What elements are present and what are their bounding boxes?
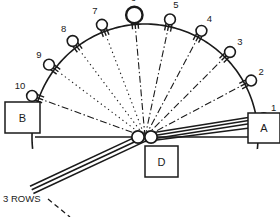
box-b-label: B — [19, 112, 26, 124]
station-circle-7[interactable] — [97, 19, 108, 30]
lower-beam-rail-1 — [32, 137, 145, 190]
leader-line-station-5 — [145, 33, 167, 137]
technical-diagram: 12345678910ABD3 ROWS — [0, 0, 280, 217]
leader-line-station-9 — [60, 73, 145, 137]
station-label-3: 3 — [237, 36, 242, 47]
station-circle-9[interactable] — [44, 59, 55, 70]
box-a-label: A — [260, 122, 268, 134]
station-circle-8[interactable] — [67, 36, 78, 47]
station-label-2: 2 — [258, 66, 263, 77]
station-circle-6[interactable] — [126, 7, 142, 23]
leader-line-station-3 — [145, 62, 220, 137]
lower-beam-rail-2 — [33, 141, 146, 194]
station-label-9: 9 — [36, 49, 41, 60]
leader-line-station-8 — [81, 52, 145, 137]
rows-callout-leader — [48, 199, 70, 217]
station-label-1: 1 — [271, 102, 276, 113]
station-circle-4[interactable] — [196, 25, 207, 36]
station-circle-2[interactable] — [246, 75, 257, 86]
station-circle-5[interactable] — [165, 14, 176, 25]
station-label-7: 7 — [92, 5, 97, 16]
main-arc — [32, 24, 258, 149]
station-label-8: 8 — [61, 23, 66, 34]
leader-line-station-10 — [45, 101, 145, 137]
station-label-5: 5 — [173, 0, 178, 10]
leader-line-station-4 — [145, 43, 195, 137]
station-circle-3[interactable] — [225, 47, 236, 58]
leader-line-station-6 — [136, 31, 145, 137]
station-label-6: 6 — [131, 0, 136, 3]
hub-circle-1[interactable] — [132, 131, 144, 143]
station-circle-10[interactable] — [27, 90, 38, 101]
rows-callout-label: 3 ROWS — [3, 193, 40, 204]
box-d-label: D — [158, 156, 166, 168]
lower-beam-rail-0 — [30, 133, 143, 186]
hub-circle-2[interactable] — [145, 131, 157, 143]
station-label-10: 10 — [15, 80, 26, 91]
diagram-canvas: 12345678910ABD3 ROWS — [0, 0, 280, 217]
leader-line-station-7 — [107, 38, 145, 137]
station-label-4: 4 — [207, 13, 212, 24]
